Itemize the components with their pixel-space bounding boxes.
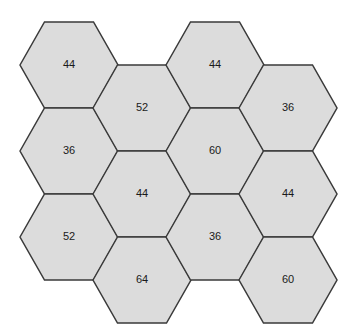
hexagon-layer: 443652524464446036364460 (20, 22, 337, 323)
hexagon-grid-canvas: 443652524464446036364460 (0, 0, 350, 335)
hex-grid-figure: · · · · 443652524464446036364460 (0, 0, 350, 335)
